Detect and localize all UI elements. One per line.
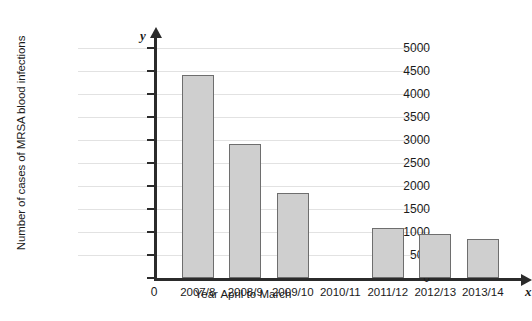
x-axis-title: Year April to March [78, 288, 408, 300]
y-tick-mark [147, 47, 155, 49]
y-tick-mark [147, 116, 155, 118]
y-axis-arrow-icon [150, 27, 162, 38]
bar [277, 193, 309, 278]
y-tick-label: 1500 [368, 203, 430, 215]
plot-area: y x 050010001500200025003000350040004500… [78, 22, 430, 257]
bar [419, 234, 451, 278]
y-tick-mark [147, 139, 155, 141]
x-axis-line [154, 278, 522, 281]
y-axis-line [154, 36, 157, 279]
y-tick-mark [147, 162, 155, 164]
x-tick-label: 2012/13 [412, 286, 460, 299]
y-tick-label: 2500 [368, 157, 430, 169]
y-tick-label: 4500 [368, 65, 430, 77]
y-tick-mark [147, 277, 155, 279]
y-tick-mark [147, 208, 155, 210]
y-axis-tip-label: y [140, 28, 146, 44]
x-tick-label: 2013/14 [459, 286, 507, 299]
y-tick-label: 3000 [368, 134, 430, 146]
bar [182, 75, 214, 278]
y-tick-mark [147, 185, 155, 187]
bar [467, 239, 499, 278]
y-tick-mark [147, 231, 155, 233]
y-tick-label: 4000 [368, 88, 430, 100]
y-tick-label: 5000 [368, 42, 430, 54]
x-axis-tip-label: x [525, 284, 532, 300]
y-axis-title: Number of cases of MRSA blood infections [10, 8, 32, 278]
y-tick-label: 3500 [368, 111, 430, 123]
bar [229, 144, 261, 278]
y-tick-label: 2000 [368, 180, 430, 192]
y-tick-mark [147, 93, 155, 95]
y-tick-mark [147, 254, 155, 256]
y-tick-mark [147, 70, 155, 72]
bar [372, 228, 404, 278]
